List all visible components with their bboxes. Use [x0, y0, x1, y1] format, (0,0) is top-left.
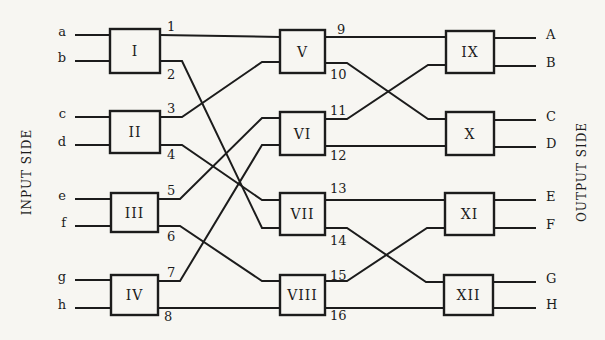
- link-label-16: 16: [330, 308, 347, 323]
- output-label-D: D: [546, 136, 556, 151]
- output-label-F: F: [546, 217, 555, 232]
- link-label-12: 12: [330, 148, 347, 163]
- link-label-14: 14: [330, 233, 347, 248]
- link-label-10: 10: [330, 67, 347, 82]
- switch-box-label-II: II: [128, 124, 141, 140]
- output-label-E: E: [546, 189, 556, 204]
- link-5: [158, 118, 280, 199]
- link-label-2: 2: [167, 67, 175, 82]
- link-6: [158, 226, 280, 281]
- switch-box-label-VI: VI: [293, 126, 312, 142]
- link-label-5: 5: [167, 183, 175, 198]
- switch-box-label-XI: XI: [461, 206, 479, 222]
- switch-box-label-IX: IX: [461, 44, 479, 60]
- link-label-8: 8: [164, 309, 172, 324]
- output-label-G: G: [546, 271, 556, 286]
- output-label-C: C: [546, 109, 556, 124]
- switch-box-label-IV: IV: [126, 287, 144, 303]
- output-label-B: B: [546, 55, 556, 70]
- switch-box-label-III: III: [125, 205, 145, 221]
- link-7: [158, 145, 280, 281]
- wires: [75, 35, 536, 308]
- output-label-H: H: [546, 297, 557, 312]
- link-label-15: 15: [330, 268, 347, 283]
- link-1: [160, 35, 280, 37]
- switch-box-label-XII: XII: [456, 287, 480, 303]
- input-label-c: c: [59, 106, 66, 121]
- switch-box-label-V: V: [296, 44, 308, 60]
- input-label-b: b: [58, 50, 66, 65]
- link-label-3: 3: [167, 101, 175, 116]
- link-3: [160, 62, 280, 117]
- link-4: [160, 145, 280, 200]
- input-side-label: INPUT SIDE: [20, 129, 34, 215]
- switch-box-label-I: I: [132, 43, 139, 59]
- input-label-e: e: [58, 188, 66, 203]
- link-label-13: 13: [330, 181, 347, 196]
- link-label-9: 9: [337, 22, 345, 37]
- switch-box-label-X: X: [465, 126, 476, 142]
- input-label-d: d: [58, 134, 66, 149]
- switch-box-label-VII: VII: [289, 206, 314, 222]
- input-label-g: g: [58, 269, 66, 284]
- switch-box-label-VIII: VIII: [286, 287, 318, 303]
- input-label-h: h: [58, 297, 67, 312]
- link-label-4: 4: [167, 147, 175, 162]
- link-label-7: 7: [167, 265, 175, 280]
- link-label-11: 11: [330, 103, 347, 118]
- input-label-a: a: [58, 24, 66, 39]
- link-label-6: 6: [167, 229, 175, 244]
- input-label-f: f: [61, 215, 67, 230]
- link-label-1: 1: [167, 19, 175, 34]
- output-label-A: A: [545, 27, 556, 42]
- switching-network-diagram: IIIIIIIVVVIVIIVIIIIXXXIXII abcdefghABCDE…: [0, 0, 605, 340]
- output-side-label: OUTPUT SIDE: [575, 122, 589, 222]
